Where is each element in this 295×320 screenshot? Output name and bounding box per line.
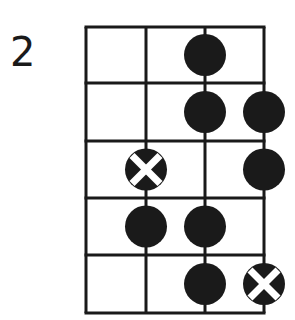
note-dot [184, 206, 226, 248]
note-dot [125, 206, 167, 248]
note-dot [243, 149, 285, 191]
root-note-dot [125, 149, 167, 191]
fretboard-grid [0, 0, 295, 320]
note-dot [184, 34, 226, 76]
grid-lines [85, 27, 266, 313]
note-dot [184, 263, 226, 305]
note-dot [243, 91, 285, 133]
root-note-dot [243, 263, 285, 305]
note-dot [184, 91, 226, 133]
